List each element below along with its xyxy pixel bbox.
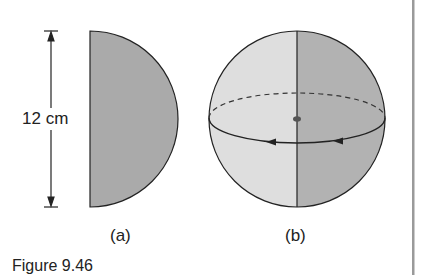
- semicircle-shape: [90, 31, 178, 207]
- arrow-up-icon: [48, 32, 54, 41]
- sphere-shape: [209, 31, 385, 207]
- panel-a-label: (a): [110, 226, 131, 245]
- arrow-down-icon: [48, 197, 54, 206]
- figure-caption: Figure 9.46: [12, 257, 93, 274]
- panel-b-label: (b): [285, 226, 306, 245]
- margin-rule: [412, 0, 415, 275]
- dimension-label: 12 cm: [22, 109, 68, 128]
- center-dot: [293, 116, 301, 122]
- figure-canvas: 12 cm (a) (b) Figure 9.46: [0, 0, 427, 275]
